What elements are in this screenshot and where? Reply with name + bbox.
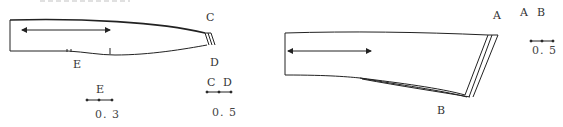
legend-e-value: 0. 3: [95, 109, 120, 120]
legend-c-label: C: [207, 77, 215, 88]
legend-d-label: D: [223, 77, 232, 88]
label-c: C: [206, 12, 214, 23]
pattern-diagram: C D E E 0. 3 C D 0. 5 A B A B 0. 5: [0, 0, 563, 127]
legend-ab-value: 0. 5: [532, 45, 557, 56]
legend-ab-scale: [530, 40, 554, 42]
legend-b-label: B: [537, 7, 545, 18]
pattern-drawing: [0, 0, 563, 127]
legend-cd-scale: [206, 91, 232, 93]
label-e: E: [73, 59, 81, 70]
label-a: A: [493, 10, 501, 21]
legend-cd-value: 0. 5: [212, 107, 237, 118]
label-d: D: [210, 57, 219, 68]
right-pattern-piece: [285, 32, 498, 97]
left-pattern-piece: [10, 20, 215, 55]
legend-e-scale: [86, 99, 113, 101]
legend-a-label: A: [520, 7, 528, 18]
label-b: B: [437, 105, 445, 116]
legend-e-label: E: [96, 84, 104, 95]
